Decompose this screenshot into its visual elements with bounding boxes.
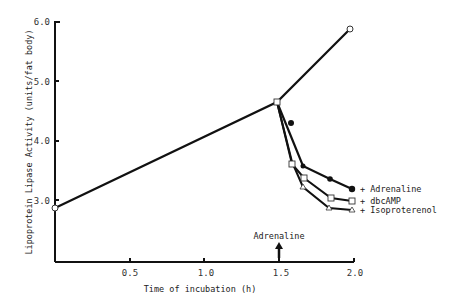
y-tick-6: 6.0 [34, 17, 50, 27]
x-tick-1-5: 1.5 [273, 268, 289, 278]
junction-marker [274, 99, 280, 105]
adrenaline-annotation: Adrenaline [253, 231, 304, 241]
series-isoproterenol [277, 102, 355, 212]
y-tick-3: 3.0 [34, 196, 50, 206]
series-dbcamp [277, 102, 355, 204]
x-tick-2-0: 2.0 [347, 268, 363, 278]
axes [55, 21, 354, 262]
y-axis-title: Lipoprotein Lipase Activity (units/fat b… [24, 29, 34, 254]
legend-isoproterenol: + Isoproterenol [360, 205, 437, 215]
chart: 6.0 5.0 4.0 3.0 0.5 1.0 1.5 2.0 Time of … [0, 0, 452, 301]
y-tick-4: 4.0 [34, 136, 50, 146]
series-control [52, 26, 353, 211]
x-axis-title: Time of incubation (h) [144, 284, 257, 294]
legend-adrenaline: + Adrenaline [360, 184, 421, 194]
x-tick-1-0: 1.0 [198, 268, 214, 278]
x-tick-0-5: 0.5 [122, 268, 138, 278]
y-tick-5: 5.0 [34, 77, 50, 87]
adrenaline-arrow-icon [275, 242, 283, 258]
